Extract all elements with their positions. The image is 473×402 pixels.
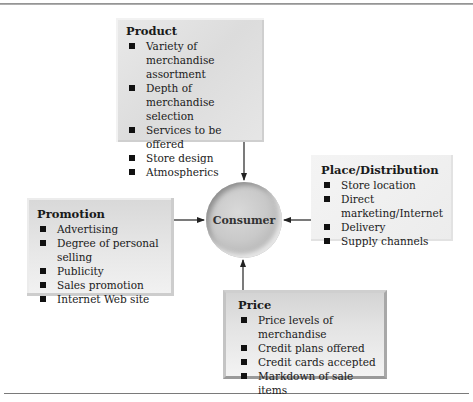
connector-arrows [0, 0, 473, 402]
